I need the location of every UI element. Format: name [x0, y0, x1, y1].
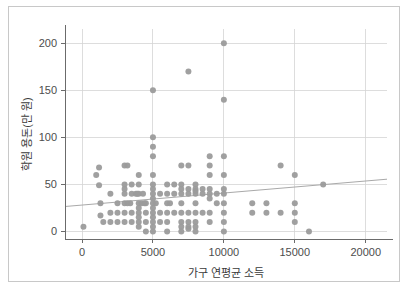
- y-tick-label: 150: [39, 84, 57, 96]
- data-point: [140, 191, 146, 197]
- data-point: [292, 219, 298, 225]
- data-point: [320, 181, 326, 187]
- data-point: [185, 226, 191, 232]
- x-tick-label: 5000: [141, 246, 165, 258]
- figure-frame: 05000100001500020000 050100150200 가구 연평균…: [8, 6, 400, 282]
- data-point: [93, 172, 99, 178]
- data-point: [150, 144, 156, 150]
- data-point: [114, 200, 120, 206]
- data-point: [221, 228, 227, 234]
- data-point: [221, 191, 227, 197]
- y-tick-label: 50: [45, 178, 57, 190]
- y-tick-label: 100: [39, 131, 57, 143]
- data-point: [214, 191, 220, 197]
- data-point: [136, 181, 142, 187]
- data-point: [178, 228, 184, 234]
- data-point: [221, 40, 227, 46]
- data-point: [107, 210, 113, 216]
- data-point: [221, 172, 227, 178]
- data-point: [107, 219, 113, 225]
- axis-spines: [65, 25, 393, 239]
- data-point: [178, 210, 184, 216]
- data-point: [292, 210, 298, 216]
- data-point: [122, 219, 128, 225]
- data-point: [221, 153, 227, 159]
- data-point: [80, 224, 86, 230]
- data-point: [167, 200, 173, 206]
- data-point: [157, 219, 163, 225]
- data-point: [114, 219, 120, 225]
- data-point: [114, 210, 120, 216]
- data-point: [143, 219, 149, 225]
- data-point: [207, 172, 213, 178]
- data-point: [178, 191, 184, 197]
- data-point: [136, 172, 142, 178]
- data-point: [150, 153, 156, 159]
- data-point: [306, 228, 312, 234]
- x-tick-label: 10000: [209, 246, 240, 258]
- data-point: [96, 164, 102, 170]
- data-point: [143, 210, 149, 216]
- data-point: [107, 191, 113, 197]
- data-point: [150, 228, 156, 234]
- y-axis-title: 학원 용돈(만 원): [21, 97, 33, 170]
- data-point: [200, 210, 206, 216]
- data-point: [263, 200, 269, 206]
- data-point: [97, 212, 103, 218]
- data-point: [207, 153, 213, 159]
- data-point: [150, 87, 156, 93]
- data-point: [164, 191, 170, 197]
- plot-area: 05000100001500020000 050100150200: [39, 25, 393, 258]
- data-point: [200, 191, 206, 197]
- x-tick-label: 20000: [350, 246, 381, 258]
- data-point: [171, 191, 177, 197]
- data-point: [207, 196, 213, 202]
- y-tick-label: 0: [51, 225, 57, 237]
- data-point: [122, 210, 128, 216]
- data-point: [136, 224, 142, 230]
- data-point: [207, 163, 213, 169]
- data-point: [249, 200, 255, 206]
- data-point: [164, 210, 170, 216]
- data-point: [185, 210, 191, 216]
- data-point: [97, 200, 103, 206]
- data-point: [278, 163, 284, 169]
- data-point: [263, 210, 269, 216]
- data-point: [193, 191, 199, 197]
- data-point: [185, 191, 191, 197]
- x-tick-label: 0: [79, 246, 85, 258]
- data-point: [127, 200, 133, 206]
- data-point: [157, 191, 163, 197]
- data-point: [221, 97, 227, 103]
- data-point: [157, 210, 163, 216]
- data-point: [124, 163, 130, 169]
- y-axis-ticks: 050100150200: [39, 37, 65, 237]
- data-point: [278, 210, 284, 216]
- gridlines: [65, 29, 387, 239]
- data-point: [221, 210, 227, 216]
- data-point: [150, 172, 156, 178]
- data-point: [221, 219, 227, 225]
- data-point: [193, 200, 199, 206]
- data-point: [292, 172, 298, 178]
- data-point: [185, 163, 191, 169]
- x-axis-ticks: 05000100001500020000: [79, 239, 381, 258]
- scatter-chart: 05000100001500020000 050100150200 가구 연평균…: [9, 7, 399, 281]
- data-point: [178, 200, 184, 206]
- data-point: [193, 228, 199, 234]
- y-tick-label: 200: [39, 37, 57, 49]
- data-point: [143, 228, 149, 234]
- data-point: [207, 219, 213, 225]
- data-point: [207, 210, 213, 216]
- data-point: [143, 200, 149, 206]
- data-point: [185, 68, 191, 74]
- data-point: [164, 219, 170, 225]
- data-point: [100, 219, 106, 225]
- data-point: [221, 200, 227, 206]
- data-point: [214, 200, 220, 206]
- data-point: [249, 210, 255, 216]
- data-point: [129, 181, 135, 187]
- data-point: [193, 210, 199, 216]
- x-tick-label: 15000: [280, 246, 311, 258]
- data-point: [171, 210, 177, 216]
